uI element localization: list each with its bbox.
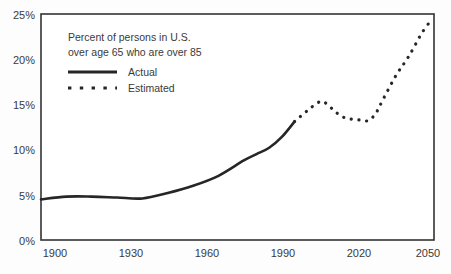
x-tick-label-1990: 1990 (271, 247, 295, 259)
line-chart: 25% 20% 15% 10% 5% 0% 1900 1930 1960 199… (0, 0, 451, 274)
y-tick-label-0: 0% (19, 235, 35, 247)
caption-line-2: over age 65 who are over 85 (68, 46, 202, 58)
y-tick-label-25: 25% (13, 9, 35, 21)
chart-container: 25% 20% 15% 10% 5% 0% 1900 1930 1960 199… (0, 0, 451, 274)
x-tick-label-1930: 1930 (119, 247, 143, 259)
y-tick-label-15: 15% (13, 99, 35, 111)
caption-line-1: Percent of persons in U.S. (68, 31, 191, 43)
x-tick-label-2050: 2050 (416, 247, 440, 259)
legend-label-estimated: Estimated (128, 82, 175, 94)
y-tick-label-10: 10% (13, 144, 35, 156)
y-tick-label-5: 5% (19, 190, 35, 202)
legend-label-actual: Actual (128, 66, 157, 78)
y-tick-label-20: 20% (13, 54, 35, 66)
x-tick-label-2020: 2020 (347, 247, 371, 259)
x-tick-label-1960: 1960 (195, 247, 219, 259)
x-tick-label-1900: 1900 (43, 247, 67, 259)
